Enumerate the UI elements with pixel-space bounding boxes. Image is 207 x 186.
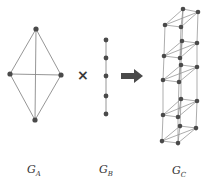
graph-edge xyxy=(181,12,198,27)
graph-edge xyxy=(163,80,179,82)
graph-node xyxy=(179,25,184,30)
graph-node xyxy=(161,113,166,118)
label-graph-c: GC xyxy=(172,164,186,179)
graph-b xyxy=(104,38,109,117)
graph-node xyxy=(180,39,185,44)
graph-node xyxy=(179,63,184,68)
graph-a xyxy=(7,26,63,122)
graph-node xyxy=(179,97,184,102)
graph-node xyxy=(104,56,109,61)
graph-node xyxy=(162,54,167,59)
graph-node xyxy=(181,7,186,12)
label-graph-c-sub: C xyxy=(181,171,186,179)
cartesian-product-operator: × xyxy=(77,68,89,82)
graph-node xyxy=(178,124,183,129)
graph-node xyxy=(104,112,109,117)
label-graph-a-sub: A xyxy=(36,170,41,178)
graph-edge xyxy=(10,74,61,75)
label-graph-a: GA xyxy=(27,163,41,178)
graph-edge xyxy=(10,29,36,74)
graph-edge xyxy=(162,126,180,141)
graph-edge xyxy=(35,75,61,120)
graph-node xyxy=(163,23,168,28)
graph-edge xyxy=(165,25,181,27)
graph-node xyxy=(104,94,109,99)
label-graph-c-main: G xyxy=(172,164,181,177)
graph-node xyxy=(104,38,109,43)
graph-edge xyxy=(163,65,181,80)
graph-node xyxy=(58,72,63,77)
graph-edge xyxy=(162,115,163,141)
label-graph-b-main: G xyxy=(99,163,108,176)
graph-edge xyxy=(162,128,196,141)
graph-node xyxy=(195,41,200,46)
label-graph-a-main: G xyxy=(27,163,36,176)
graph-edge xyxy=(196,101,197,128)
right-arrow-icon xyxy=(121,69,143,83)
graph-node xyxy=(195,99,200,104)
graph-edge xyxy=(10,74,35,120)
graph-node xyxy=(194,126,199,131)
label-graph-b: GB xyxy=(99,163,113,178)
graph-edge xyxy=(163,56,164,80)
graph-edge xyxy=(36,29,61,75)
graph-node xyxy=(160,139,165,144)
graph-edge xyxy=(163,67,197,80)
graph-edge xyxy=(162,141,178,143)
graph-node xyxy=(33,26,38,31)
graph-edge xyxy=(178,128,196,143)
graph-node xyxy=(176,115,181,120)
graph-node xyxy=(178,56,183,61)
graph-node xyxy=(196,10,201,15)
graph-edge xyxy=(181,65,197,67)
graph-edge xyxy=(164,25,165,56)
graph-edge xyxy=(179,67,197,82)
graph-edge xyxy=(165,9,183,25)
graph-edge xyxy=(197,12,198,43)
graph-node xyxy=(177,80,182,85)
graph-edge xyxy=(164,41,182,56)
graph-node xyxy=(161,78,166,83)
graph-node xyxy=(195,65,200,70)
graph-product-diagram xyxy=(0,0,207,186)
label-graph-b-sub: B xyxy=(108,170,113,178)
graph-node xyxy=(32,117,37,122)
graph-node xyxy=(7,71,12,76)
graph-node xyxy=(176,141,181,146)
graph-edge xyxy=(180,126,196,128)
graph-edge xyxy=(180,43,197,58)
graph-edge xyxy=(164,56,180,58)
graph-edge xyxy=(181,99,197,101)
graph-node xyxy=(104,74,109,79)
graph-c xyxy=(160,7,201,146)
